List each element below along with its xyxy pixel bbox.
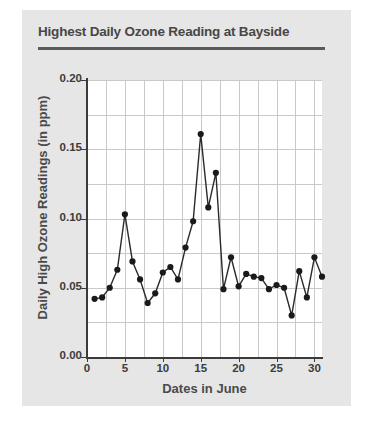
x-tick-mark — [201, 357, 202, 362]
x-tick-mark — [163, 357, 164, 362]
gridline-vertical — [239, 80, 240, 357]
gridline-horizontal — [87, 253, 322, 254]
gridline-vertical — [163, 80, 164, 357]
x-tick-label: 30 — [299, 362, 329, 374]
gridline-vertical — [182, 80, 183, 357]
gridline-vertical — [125, 80, 126, 357]
page-title: Highest Daily Ozone Reading at Bayside — [38, 24, 338, 39]
x-tick-mark — [239, 357, 240, 362]
y-tick-label: 0.15 — [60, 141, 82, 153]
gridline-vertical — [144, 80, 145, 357]
gridline-vertical — [201, 80, 202, 357]
y-tick-label: 0.20 — [60, 72, 82, 84]
gridline-horizontal — [87, 149, 322, 150]
x-tick-label: 20 — [224, 362, 254, 374]
x-axis-label: Dates in June — [87, 381, 322, 396]
x-tick-mark — [314, 357, 315, 362]
gridline-vertical — [220, 80, 221, 357]
x-tick-label: 15 — [186, 362, 216, 374]
gridline-horizontal — [87, 322, 322, 323]
y-tick-label: 0.05 — [60, 280, 82, 292]
x-tick-mark — [125, 357, 126, 362]
gridline-horizontal — [87, 80, 322, 81]
x-tick-mark — [277, 357, 278, 362]
gridline-horizontal — [87, 219, 322, 220]
x-tick-label: 25 — [262, 362, 292, 374]
gridline-vertical — [106, 80, 107, 357]
x-axis — [86, 357, 323, 359]
y-axis-label: Daily High Ozone Readings (in ppm) — [35, 93, 50, 323]
x-tick-label: 10 — [148, 362, 178, 374]
y-tick-label: 0.00 — [60, 349, 82, 361]
gridline-vertical — [277, 80, 278, 357]
x-tick-mark — [87, 357, 88, 362]
x-tick-label: 0 — [72, 362, 102, 374]
y-tick-mark — [81, 288, 87, 289]
gridline-horizontal — [87, 115, 322, 116]
y-tick-mark — [81, 149, 87, 150]
y-tick-mark — [81, 80, 87, 81]
y-tick-mark — [81, 219, 87, 220]
gridline-vertical — [295, 80, 296, 357]
x-tick-label: 5 — [110, 362, 140, 374]
y-tick-label: 0.10 — [60, 211, 82, 223]
gridline-vertical — [314, 80, 315, 357]
gridline-horizontal — [87, 288, 322, 289]
gridline-vertical — [258, 80, 259, 357]
gridline-horizontal — [87, 184, 322, 185]
